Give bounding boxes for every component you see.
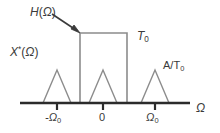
spectrum-label: X*(Ω): [10, 46, 38, 58]
axis-label-text: Ω: [196, 101, 205, 115]
spectrum-label-base: X: [10, 45, 18, 59]
triangle-height-base: A/T: [163, 59, 180, 71]
triangle-height-label: A/T0: [163, 60, 184, 71]
rect-height-sub: 0: [144, 35, 149, 44]
rect-height-label: T0: [137, 30, 149, 42]
tick-label-positive-sub: 0: [154, 116, 158, 125]
spectrum-triangle-negative: [43, 70, 71, 103]
spectrum-triangle-baseband: [89, 70, 117, 103]
tick-label-negative-base: -Ω: [45, 111, 57, 123]
spectrum-label-close: ): [34, 45, 38, 59]
axis-label: Ω: [196, 102, 205, 114]
tick-label-omega0: Ω0: [146, 112, 159, 123]
spectrum-label-star: *: [18, 44, 21, 54]
figure-canvas: [0, 0, 220, 133]
filter-label: H(Ω): [30, 6, 56, 18]
tick-label-negative-omega0: -Ω0: [45, 112, 61, 123]
tick-label-zero: 0: [99, 112, 105, 123]
filter-label-arg: Ω: [43, 5, 52, 19]
callout-arrow-head: [71, 25, 80, 33]
filter-label-close: ): [52, 5, 56, 19]
filter-rectangle: [80, 33, 127, 103]
spectrum-triangle-positive: [141, 70, 169, 103]
filter-label-base: H: [30, 5, 39, 19]
triangle-height-sub: 0: [180, 64, 184, 73]
signal-spectrum-figure: H(Ω) X*(Ω) T0 A/T0 -Ω0 0 Ω0 Ω: [0, 0, 220, 133]
tick-label-negative-sub: 0: [57, 116, 61, 125]
